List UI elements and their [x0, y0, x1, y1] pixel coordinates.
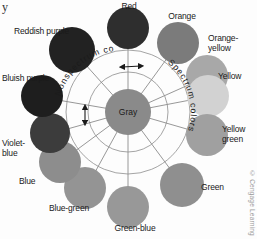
color-circle-figure: y — [0, 0, 257, 239]
swatch-red — [107, 7, 149, 49]
label-blue: Blue — [19, 177, 51, 187]
label-red: Red — [112, 2, 146, 12]
label-yellow: Yellow — [218, 72, 257, 82]
copyright-credit: © Cengage Learning — [249, 170, 256, 236]
label-blue-green: Blue-green — [37, 204, 101, 214]
swatch-green-blue — [107, 186, 149, 228]
label-yellow-green: Yellow green — [222, 125, 257, 144]
label-green: Green — [201, 183, 241, 193]
label-green-blue: Green-blue — [103, 224, 167, 234]
label-violet-blue: Violet- blue — [2, 139, 44, 158]
swatch-green — [160, 163, 204, 207]
label-bluish-purple: Bluish purple — [2, 74, 80, 84]
center-gray-label: Gray — [119, 107, 138, 117]
swatch-orange — [157, 22, 199, 64]
label-reddish-purple: Reddish purple — [14, 27, 98, 37]
label-orange: Orange — [160, 12, 204, 22]
top-arc-arrow — [122, 66, 141, 67]
label-orange-yellow: Orange- yellow — [208, 34, 256, 53]
